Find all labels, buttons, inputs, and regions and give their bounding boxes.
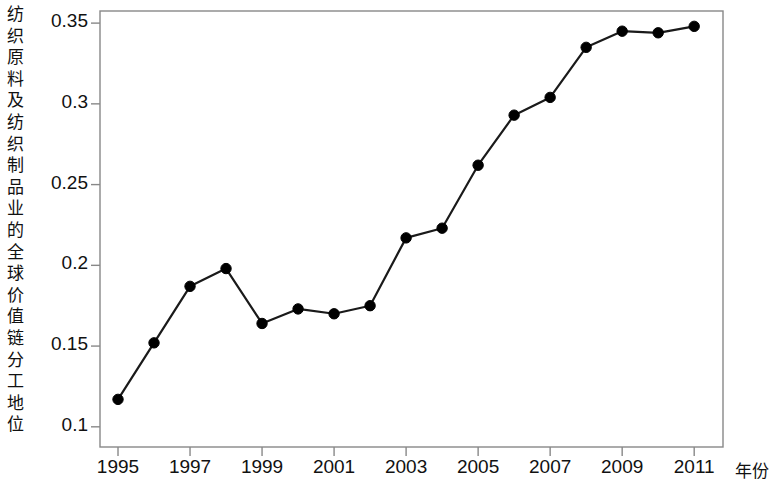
data-point-marker [149,338,159,348]
data-point-marker [257,318,267,328]
data-point-marker [653,28,663,38]
data-point-marker [293,304,303,314]
data-point-marker [473,160,483,170]
y-axis-ticks [91,23,100,427]
data-point-marker [545,92,555,102]
data-point-marker [185,281,195,291]
data-point-marker [113,394,123,404]
plot-border [100,11,723,447]
line-chart-plot [0,0,779,480]
x-axis-ticks [118,447,694,456]
chart-figure: 纺织原料及纺织制品业的全球价值链分工地位 0.10.150.20.250.30.… [0,0,779,480]
data-point-marker [437,223,447,233]
data-point-marker [689,21,699,31]
data-point-marker [221,263,231,273]
plot-frame [100,11,723,447]
data-point-marker [401,233,411,243]
data-point-marker [365,301,375,311]
data-point-marker [581,42,591,52]
data-point-marker [509,110,519,120]
data-point-marker [329,309,339,319]
data-point-marker [617,26,627,36]
